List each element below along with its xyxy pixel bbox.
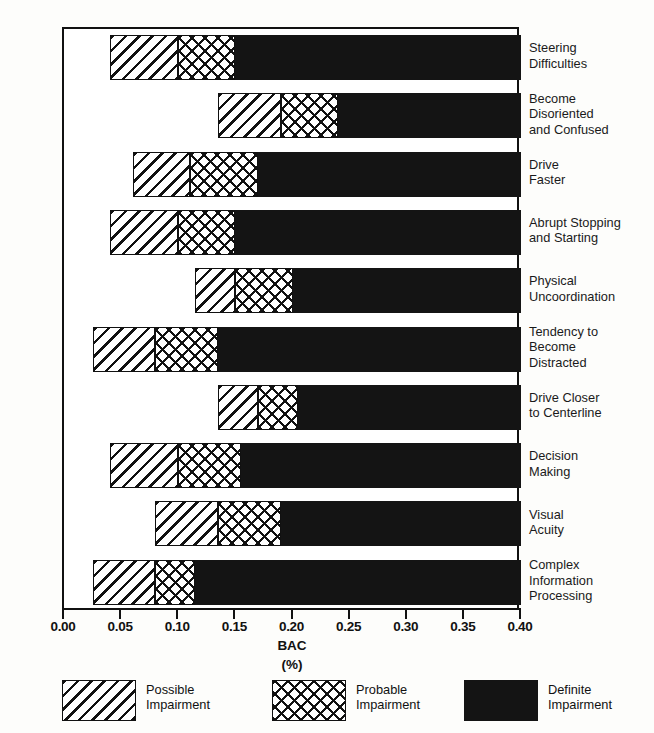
bar-row bbox=[64, 152, 521, 197]
category-label: DecisionMaking bbox=[529, 448, 651, 479]
legend-swatch-cross-hatch bbox=[272, 680, 346, 721]
bar-segment-solid-black bbox=[258, 152, 521, 197]
x-axis-tick bbox=[291, 610, 293, 619]
bar-row bbox=[64, 501, 521, 546]
bar-segment-cross-hatch bbox=[190, 152, 259, 197]
bars-layer bbox=[64, 29, 517, 608]
x-axis-tick bbox=[119, 610, 121, 619]
bar-segment-cross-hatch bbox=[178, 210, 235, 255]
category-label: BecomeDisorientedand Confused bbox=[529, 91, 651, 137]
bar-segment-solid-black bbox=[218, 327, 521, 372]
bar-row bbox=[64, 93, 521, 138]
bar-row bbox=[64, 443, 521, 488]
bar-segment-diagonal-hatch bbox=[218, 93, 281, 138]
bar-row bbox=[64, 385, 521, 430]
bar-segment-solid-black bbox=[281, 501, 521, 546]
bar-segment-solid-black bbox=[235, 210, 521, 255]
bar-segment-solid-black bbox=[338, 93, 521, 138]
x-axis-tick bbox=[519, 610, 521, 619]
bar-segment-diagonal-hatch bbox=[93, 327, 156, 372]
bar-row bbox=[64, 560, 521, 605]
bar-segment-cross-hatch bbox=[178, 35, 235, 80]
bar-segment-diagonal-hatch bbox=[110, 35, 179, 80]
x-axis-tick-label: 0.00 bbox=[50, 619, 75, 634]
legend-swatch-diagonal-hatch bbox=[62, 680, 136, 721]
category-label: ComplexInformationProcessing bbox=[529, 557, 651, 603]
x-axis-tick-label: 0.20 bbox=[279, 619, 304, 634]
bar-segment-diagonal-hatch bbox=[93, 560, 156, 605]
bac-impairment-chart: 0.000.050.100.150.200.250.300.350.40 BAC… bbox=[0, 0, 654, 733]
legend-swatch-solid-black bbox=[464, 680, 538, 721]
x-axis-title-units: (%) bbox=[232, 657, 352, 672]
x-axis-tick-label: 0.15 bbox=[222, 619, 247, 634]
legend-label: PossibleImpairment bbox=[146, 682, 210, 713]
bar-segment-diagonal-hatch bbox=[218, 385, 258, 430]
category-label: DriveFaster bbox=[529, 157, 651, 188]
category-label: PhysicalUncoordination bbox=[529, 273, 651, 304]
bar-segment-solid-black bbox=[235, 35, 521, 80]
category-label: SteeringDifficulties bbox=[529, 40, 651, 71]
plot-area bbox=[62, 27, 519, 610]
bar-segment-cross-hatch bbox=[218, 501, 281, 546]
bar-row bbox=[64, 327, 521, 372]
bar-segment-solid-black bbox=[293, 268, 522, 313]
bar-segment-diagonal-hatch bbox=[195, 268, 235, 313]
bar-segment-solid-black bbox=[195, 560, 521, 605]
x-axis-tick bbox=[348, 610, 350, 619]
bar-segment-diagonal-hatch bbox=[133, 152, 190, 197]
bar-segment-solid-black bbox=[241, 443, 521, 488]
x-axis-tick-label: 0.10 bbox=[165, 619, 190, 634]
x-axis-tick-label: 0.35 bbox=[450, 619, 475, 634]
bar-segment-cross-hatch bbox=[155, 327, 218, 372]
x-axis-tick bbox=[462, 610, 464, 619]
category-label: Drive Closerto Centerline bbox=[529, 390, 651, 421]
category-label: VisualAcuity bbox=[529, 507, 651, 538]
legend-label: ProbableImpairment bbox=[356, 682, 420, 713]
x-axis-tick-label: 0.25 bbox=[336, 619, 361, 634]
bar-row bbox=[64, 35, 521, 80]
x-axis-tick-label: 0.30 bbox=[393, 619, 418, 634]
bar-segment-cross-hatch bbox=[235, 268, 292, 313]
bar-segment-diagonal-hatch bbox=[110, 443, 179, 488]
bar-segment-cross-hatch bbox=[281, 93, 338, 138]
bar-segment-solid-black bbox=[298, 385, 521, 430]
category-label: Tendency toBecomeDistracted bbox=[529, 324, 651, 370]
x-axis-tick bbox=[62, 610, 64, 619]
x-axis-tick bbox=[176, 610, 178, 619]
x-axis-tick bbox=[233, 610, 235, 619]
legend-label: DefiniteImpairment bbox=[548, 682, 612, 713]
x-axis-tick bbox=[405, 610, 407, 619]
bar-segment-diagonal-hatch bbox=[110, 210, 179, 255]
x-axis-tick-label: 0.05 bbox=[108, 619, 133, 634]
bar-row bbox=[64, 268, 521, 313]
bar-segment-cross-hatch bbox=[178, 443, 241, 488]
category-label: Abrupt Stoppingand Starting bbox=[529, 215, 651, 246]
bar-segment-diagonal-hatch bbox=[155, 501, 218, 546]
bar-segment-cross-hatch bbox=[258, 385, 298, 430]
bar-row bbox=[64, 210, 521, 255]
bar-segment-cross-hatch bbox=[155, 560, 195, 605]
x-axis-tick-label: 0.40 bbox=[507, 619, 532, 634]
x-axis-title: BAC bbox=[232, 638, 352, 653]
